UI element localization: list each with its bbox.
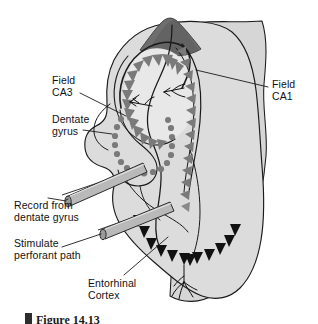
caption-bullet-icon [25,313,32,324]
granule-cell [169,134,175,140]
granule-cell [158,166,164,172]
granule-cell [118,159,124,165]
hippocampus-figure: Field CA3 Dentate gyrus Record from dent… [0,0,318,324]
label-dentate-gyrus: Dentate gyrus [52,114,89,137]
hippocampus-diagram [0,0,318,324]
granule-cell [168,125,174,131]
label-record-from-dentate-gyrus: Record from dentate gyrus [14,200,79,223]
label-entorhinal-cortex: Entorhinal Cortex [88,278,136,301]
granule-cell [114,151,120,157]
granule-cell [118,116,124,122]
granule-cell [168,152,174,158]
granule-cell [164,160,170,166]
granule-cell [150,169,156,175]
figure-caption: Figure 14.13 [36,313,100,324]
granule-cell [165,117,171,123]
label-field-ca3: Field CA3 [52,75,75,98]
granule-cell [112,142,118,148]
label-field-ca1: Field CA1 [272,79,295,102]
granule-cell [169,143,175,149]
granule-cell [114,124,120,130]
label-stimulate-perforant-path: Stimulate perforant path [14,238,81,261]
